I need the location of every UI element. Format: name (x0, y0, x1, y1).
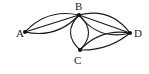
node-b (77, 13, 81, 17)
node-label-c: C (74, 54, 81, 66)
node-c (78, 48, 82, 52)
node-label-b: B (75, 0, 82, 12)
edge-b-c-4 (70, 15, 80, 50)
edges-group (25, 13, 130, 50)
node-label-d: D (134, 27, 142, 39)
graph-diagram: ABCD (0, 0, 149, 74)
edge-c-d-8 (80, 33, 130, 50)
node-label-a: A (16, 27, 24, 39)
node-d (128, 31, 132, 35)
